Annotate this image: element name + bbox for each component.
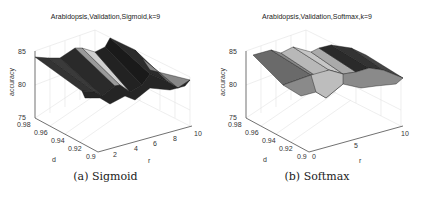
z-tick-75: 75 <box>18 114 26 121</box>
d-tick-0.96: 0.96 <box>34 129 48 136</box>
d-tick-0.9: 0.9 <box>86 153 96 160</box>
z-tick-85: 85 <box>229 48 237 55</box>
d-tick-0.94: 0.94 <box>262 137 276 144</box>
d-tick-0.94: 0.94 <box>51 137 65 144</box>
d-tick-0.96: 0.96 <box>245 129 259 136</box>
d-axis-label: d <box>52 156 56 163</box>
sigmoid-caption: (a) Sigmoid <box>0 170 211 183</box>
r-axis-label: r <box>359 157 362 164</box>
z-tick-80: 80 <box>18 81 26 88</box>
r-tick-4: 4 <box>134 145 138 152</box>
softmax-panel: Arabidopsis,Validation,Softmax,k=9 <box>211 0 423 197</box>
r-tick-8: 8 <box>173 135 177 142</box>
surface-mesh <box>35 38 190 104</box>
r-tick-6: 6 <box>153 140 157 147</box>
r-tick-10: 10 <box>194 130 202 137</box>
r-tick-5: 5 <box>354 142 358 149</box>
z-tick-75: 75 <box>229 114 237 121</box>
r-tick-0: 0 <box>312 153 316 160</box>
r-tick-10: 10 <box>401 130 409 137</box>
d-tick-0.9: 0.9 <box>297 153 307 160</box>
surface-mesh <box>253 45 403 98</box>
d-tick-0.98: 0.98 <box>228 121 242 128</box>
z-tick-80: 80 <box>229 81 237 88</box>
d-tick-0.92: 0.92 <box>68 145 82 152</box>
z-axis-label: accuracy <box>8 67 16 96</box>
sigmoid-surface-plot: 85 80 75 accuracy 0.98 0.96 0.94 0.92 0.… <box>0 0 211 197</box>
z-axis-label: accuracy <box>219 67 227 96</box>
d-axis-label: d <box>263 156 267 163</box>
softmax-surface-plot: 85 80 75 accuracy 0.98 0.96 0.94 0.92 0.… <box>211 0 423 197</box>
d-tick-0.92: 0.92 <box>279 145 293 152</box>
r-tick-2: 2 <box>113 151 117 158</box>
d-tick-0.98: 0.98 <box>17 121 31 128</box>
r-axis-label: r <box>148 157 151 164</box>
z-tick-85: 85 <box>18 48 26 55</box>
softmax-caption: (b) Softmax <box>211 170 423 183</box>
sigmoid-panel: Arabidopsis,Validation,Sigmoid,k=9 <box>0 0 211 197</box>
